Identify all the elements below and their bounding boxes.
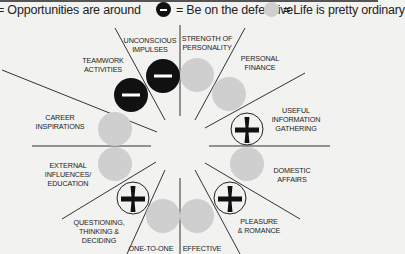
house-label-strength-of-personality: STRENGTH OF PERSONALITY (182, 34, 232, 52)
minus-circle-icon (114, 78, 148, 112)
minus-circle-icon (146, 59, 180, 93)
house-label-teamwork-activities: TEAMWORK ACTIVITIES (82, 56, 124, 74)
house-label-pleasure-romance: PLEASURE & ROMANCE (238, 217, 281, 235)
house-label-one-to-one: ONE-TO-ONE (129, 244, 174, 253)
grey-circle-icon (98, 147, 132, 181)
house-label-domestic-affairs: DOMESTIC AFFAIRS (273, 166, 310, 184)
house-label-external-influences-education: EXTERNAL INFLUENCES/ EDUCATION (45, 161, 91, 188)
house-label-personal-finance: PERSONAL FINANCE (241, 54, 279, 72)
plus-circle-icon (117, 182, 149, 214)
grey-circle-icon (180, 199, 214, 233)
house-label-career-inspirations: CAREER INSPIRATIONS (36, 113, 85, 131)
house-label-effective: EFFECTIVE (183, 244, 222, 253)
plus-circle-icon (214, 182, 246, 214)
grey-circle-icon (230, 147, 264, 181)
grey-circle-icon (98, 112, 132, 146)
grey-circle-icon (212, 77, 246, 111)
house-label-unconscious-impulses: UNCONSCIOUS IMPULSES (124, 36, 177, 54)
house-label-useful-information-gathering: USEFUL INFORMATION GATHERING (272, 106, 321, 133)
grey-circle-icon (146, 199, 180, 233)
grey-circle-icon (180, 58, 214, 92)
house-label-questioning-thinking-deciding: QUESTIONING, THINKING & DECIDING (73, 218, 124, 245)
plus-circle-icon (231, 113, 263, 145)
